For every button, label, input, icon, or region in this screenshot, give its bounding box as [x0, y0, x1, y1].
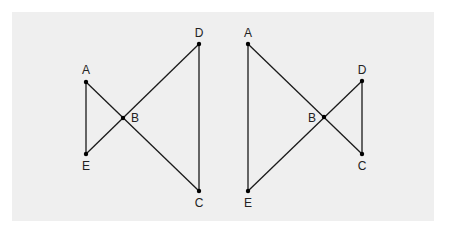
point-d — [360, 79, 364, 83]
point-e — [246, 189, 250, 193]
point-label-b: B — [131, 111, 139, 125]
point-c — [360, 152, 364, 156]
point-b — [121, 116, 125, 120]
point-label-c: C — [195, 196, 204, 210]
point-label-e: E — [244, 196, 252, 210]
point-c — [197, 189, 201, 193]
point-label-d: D — [358, 63, 367, 77]
point-label-a: A — [244, 26, 252, 40]
segment-ac — [248, 44, 362, 154]
point-b — [322, 115, 326, 119]
point-label-e: E — [82, 159, 90, 173]
point-label-c: C — [358, 159, 367, 173]
point-a — [246, 42, 250, 46]
geometry-diagram: ABCDE ABCDE — [0, 0, 450, 235]
point-e — [84, 152, 88, 156]
point-label-a: A — [82, 63, 90, 77]
right-figure: ABCDE — [244, 26, 367, 210]
segment-ed — [248, 81, 362, 191]
point-label-d: D — [195, 26, 204, 40]
point-label-b: B — [308, 111, 316, 125]
point-a — [84, 80, 88, 84]
left-figure: ABCDE — [82, 26, 204, 210]
point-d — [197, 42, 201, 46]
